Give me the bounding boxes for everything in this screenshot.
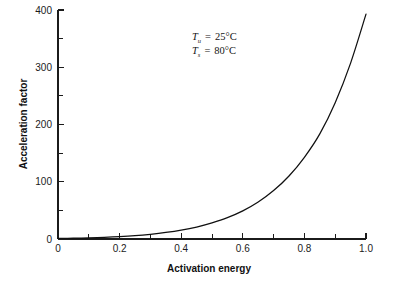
x-tick-label: 0.6 xyxy=(236,243,250,254)
x-axis-title: Activation energy xyxy=(167,263,251,274)
y-axis-title: Acceleration factor xyxy=(18,79,29,170)
annotation-value: 80°C xyxy=(214,45,236,56)
x-tick-label: 0.8 xyxy=(297,243,311,254)
chart-canvas: 0 100 200 300 400 0 0.2 0.4 0.6 0.8 1.0 … xyxy=(0,0,396,285)
x-tick-label: 0 xyxy=(55,243,61,254)
y-tick-label: 0 xyxy=(46,234,52,245)
x-tick-label: 0.4 xyxy=(174,243,188,254)
annotation-equals: = xyxy=(205,31,211,42)
x-tick-label: 0.2 xyxy=(113,243,127,254)
y-tick-label: 200 xyxy=(35,119,52,130)
annotation-equals: = xyxy=(204,45,210,56)
y-tick-label: 300 xyxy=(35,62,52,73)
annotation-value: 25°C xyxy=(215,31,237,42)
y-tick-label: 100 xyxy=(35,176,52,187)
chart-figure: 0 100 200 300 400 0 0.2 0.4 0.6 0.8 1.0 … xyxy=(0,0,396,285)
x-tick-label: 1.0 xyxy=(359,243,373,254)
y-tick-label: 400 xyxy=(35,5,52,16)
